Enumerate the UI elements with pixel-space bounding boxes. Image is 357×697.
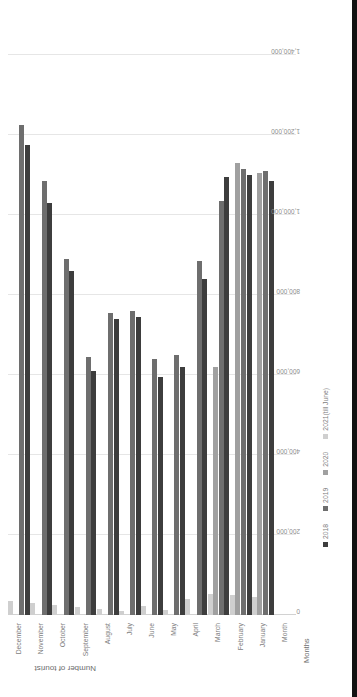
bar-2021tilljune [119,611,124,615]
bar-2021tilljune [141,606,146,615]
bar-2018 [114,319,119,615]
bar-2019 [152,359,157,615]
bar-2021tilljune [163,610,168,615]
bar-2019 [64,259,69,615]
scan-edge-artifact [352,0,357,697]
bar-group [52,55,74,615]
value-tick-label: 1,400,000 [271,48,300,55]
bar-2021tilljune [252,597,257,615]
category-label: May [170,623,177,636]
bar-2019 [130,311,135,615]
value-tick-label: 1,200,000 [271,128,300,135]
bar-2019 [219,201,224,615]
bar-2020 [235,163,240,615]
bar-group [30,55,52,615]
bar-group [163,55,185,615]
bar-2018 [269,181,274,615]
bar-group [185,55,207,615]
value-tick-label: 0 [296,608,300,615]
bar-2021tilljune [97,609,102,615]
bar-2018 [136,317,141,615]
bar-group [230,55,252,615]
category-label: July [126,623,133,635]
bar-2019 [42,181,47,615]
bar-2018 [224,177,229,615]
value-tick-label: 400,000 [277,448,301,455]
legend-item: 2021(till June) [322,388,329,439]
category-label: December [15,623,22,654]
legend-item: 2019 [322,488,329,511]
value-tick-label: 200,000 [277,528,301,535]
category-label: August [104,623,111,644]
bar-2018 [202,279,207,615]
legend-swatch-icon [323,470,328,475]
bar-2021tilljune [208,594,213,615]
legend-item: 2020 [322,452,329,475]
category-label: April [192,623,199,637]
rotated-page-wrapper: 0200,000400,000600,000800,0001,000,0001,… [0,0,357,697]
bar-2021tilljune [52,605,57,615]
bar-series-container [8,55,296,615]
legend-swatch-icon [323,542,328,547]
value-tick-label: 1,000,000 [271,208,300,215]
plot-area [8,55,296,615]
bar-group [207,55,229,615]
category-axis-labels: MonthJanuaryFebruaryMarchAprilMayJuneJul… [8,617,296,697]
bar-2019 [263,171,268,615]
bar-2018 [47,203,52,615]
bar-group [8,55,30,615]
category-label: June [148,623,155,638]
bar-group [97,55,119,615]
bar-2019 [86,357,91,615]
legend-label: 2018 [322,524,329,539]
bar-2019 [241,169,246,615]
chart-legend: 2018201920202021(till June) [322,388,329,547]
legend-label: 2019 [322,488,329,503]
bar-group [119,55,141,615]
bar-2021tilljune [75,607,80,615]
bar-group [141,55,163,615]
bar-2021tilljune [185,599,190,615]
legend-label: 2020 [322,452,329,467]
bar-2019 [174,355,179,615]
bar-group [252,55,274,615]
bar-group [74,55,96,615]
category-axis-title: Months [302,638,311,663]
bar-2018 [25,145,30,615]
value-tick-label: 600,000 [277,368,301,375]
bar-2018 [180,367,185,615]
legend-swatch-icon [323,434,328,439]
category-label: October [59,623,66,647]
bar-2020 [257,173,262,615]
bar-2020 [213,367,218,615]
category-label: March [214,623,221,642]
value-tick-label: 800,000 [277,288,301,295]
category-label: September [82,623,89,656]
bar-2018 [91,371,96,615]
bar-2018 [158,377,163,615]
legend-swatch-icon [323,506,328,511]
bar-2021tilljune [30,603,35,615]
bar-2021tilljune [8,601,13,615]
legend-item: 2018 [322,524,329,547]
category-label: Month [281,623,288,642]
bar-2019 [19,125,24,615]
category-label: November [37,623,44,654]
category-label: January [259,623,266,647]
bar-2018 [247,175,252,615]
bar-2019 [197,261,202,615]
bar-2018 [69,271,74,615]
legend-label: 2021(till June) [322,388,329,431]
bar-chart: 0200,000400,000600,000800,0001,000,0001,… [0,0,357,697]
bar-2019 [108,313,113,615]
bar-2021tilljune [230,595,235,615]
category-label: February [237,623,244,650]
